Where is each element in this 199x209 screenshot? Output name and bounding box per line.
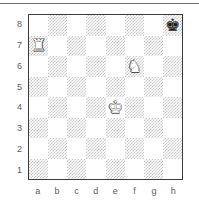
rank-label-2: 2 — [8, 144, 22, 154]
square-g7[interactable] — [144, 36, 163, 57]
rank-label-5: 5 — [8, 82, 22, 92]
file-label-h: h — [164, 186, 183, 196]
square-a2[interactable] — [29, 138, 48, 159]
square-h3[interactable] — [163, 118, 182, 139]
rank-label-1: 1 — [8, 165, 22, 175]
square-e1[interactable] — [106, 159, 125, 180]
square-h4[interactable] — [163, 97, 182, 118]
square-g6[interactable] — [144, 56, 163, 77]
square-e8[interactable] — [106, 15, 125, 36]
square-d6[interactable] — [86, 56, 105, 77]
square-g4[interactable] — [144, 97, 163, 118]
square-c2[interactable] — [67, 138, 86, 159]
square-c5[interactable] — [67, 77, 86, 98]
square-e2[interactable] — [106, 138, 125, 159]
square-d7[interactable] — [86, 36, 105, 57]
square-b3[interactable] — [48, 118, 67, 139]
square-c8[interactable] — [67, 15, 86, 36]
square-e5[interactable] — [106, 77, 125, 98]
square-h6[interactable] — [163, 56, 182, 77]
square-e3[interactable] — [106, 118, 125, 139]
square-a3[interactable] — [29, 118, 48, 139]
square-a1[interactable] — [29, 159, 48, 180]
file-label-b: b — [47, 186, 66, 196]
rank-label-8: 8 — [8, 19, 22, 29]
square-b8[interactable] — [48, 15, 67, 36]
square-h5[interactable] — [163, 77, 182, 98]
square-c4[interactable] — [67, 97, 86, 118]
square-b5[interactable] — [48, 77, 67, 98]
square-c1[interactable] — [67, 159, 86, 180]
file-label-a: a — [28, 186, 47, 196]
square-g2[interactable] — [144, 138, 163, 159]
chess-board-figure: ♚♜♞♚ 87654321 abcdefgh — [0, 0, 199, 209]
square-f7[interactable] — [125, 36, 144, 57]
file-label-c: c — [67, 186, 86, 196]
file-label-g: g — [144, 186, 163, 196]
square-d5[interactable] — [86, 77, 105, 98]
file-label-d: d — [86, 186, 105, 196]
square-d1[interactable] — [86, 159, 105, 180]
square-h2[interactable] — [163, 138, 182, 159]
square-d4[interactable] — [86, 97, 105, 118]
white-rook-a7[interactable]: ♜ — [29, 36, 48, 57]
square-a5[interactable] — [29, 77, 48, 98]
white-king-e4[interactable]: ♚ — [106, 97, 125, 118]
square-d3[interactable] — [86, 118, 105, 139]
square-f4[interactable] — [125, 97, 144, 118]
black-king-h8[interactable]: ♚ — [163, 15, 182, 36]
square-f6[interactable]: ♞ — [125, 56, 144, 77]
chess-board: ♚♜♞♚ — [28, 14, 183, 180]
square-f1[interactable] — [125, 159, 144, 180]
square-d8[interactable] — [86, 15, 105, 36]
square-c6[interactable] — [67, 56, 86, 77]
square-b7[interactable] — [48, 36, 67, 57]
square-f3[interactable] — [125, 118, 144, 139]
square-f5[interactable] — [125, 77, 144, 98]
square-a4[interactable] — [29, 97, 48, 118]
rank-label-3: 3 — [8, 123, 22, 133]
square-b6[interactable] — [48, 56, 67, 77]
square-a8[interactable] — [29, 15, 48, 36]
square-f8[interactable] — [125, 15, 144, 36]
square-g5[interactable] — [144, 77, 163, 98]
square-b1[interactable] — [48, 159, 67, 180]
rank-label-4: 4 — [8, 102, 22, 112]
square-h8[interactable]: ♚ — [163, 15, 182, 36]
chess-board-squares: ♚♜♞♚ — [29, 15, 182, 179]
square-b2[interactable] — [48, 138, 67, 159]
rank-label-7: 7 — [8, 40, 22, 50]
square-d2[interactable] — [86, 138, 105, 159]
square-a7[interactable]: ♜ — [29, 36, 48, 57]
white-knight-f6[interactable]: ♞ — [125, 56, 144, 77]
square-e4[interactable]: ♚ — [106, 97, 125, 118]
square-g8[interactable] — [144, 15, 163, 36]
square-f2[interactable] — [125, 138, 144, 159]
rank-label-6: 6 — [8, 61, 22, 71]
file-label-e: e — [106, 186, 125, 196]
file-label-f: f — [125, 186, 144, 196]
square-h1[interactable] — [163, 159, 182, 180]
square-e7[interactable] — [106, 36, 125, 57]
square-c3[interactable] — [67, 118, 86, 139]
square-g1[interactable] — [144, 159, 163, 180]
square-b4[interactable] — [48, 97, 67, 118]
square-c7[interactable] — [67, 36, 86, 57]
square-a6[interactable] — [29, 56, 48, 77]
square-g3[interactable] — [144, 118, 163, 139]
square-h7[interactable] — [163, 36, 182, 57]
square-e6[interactable] — [106, 56, 125, 77]
